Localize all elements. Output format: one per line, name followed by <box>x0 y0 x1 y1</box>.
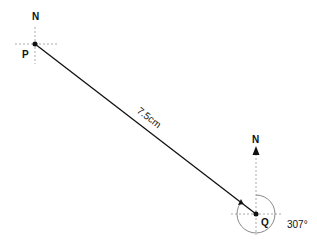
point-q-label: Q <box>261 217 269 228</box>
point-q-dot <box>254 212 259 217</box>
distance-line <box>35 44 256 214</box>
bearing-diagram: N P N Q 307° 7.5cm <box>0 0 317 250</box>
distance-label: 7.5cm <box>135 105 163 130</box>
point-p-dot <box>33 42 38 47</box>
point-p-label: P <box>22 49 29 60</box>
bearing-label: 307° <box>287 219 308 230</box>
north-label-q: N <box>252 134 259 145</box>
north-arrow-icon <box>253 146 260 155</box>
north-label-p: N <box>32 11 39 22</box>
